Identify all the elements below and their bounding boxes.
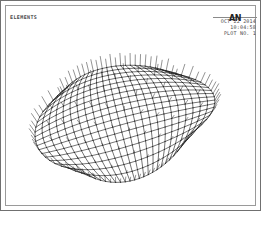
- mesh-edge: [164, 112, 171, 114]
- mesh-edge: [129, 128, 136, 130]
- mesh-edge: [116, 66, 118, 69]
- element-normal-spike: [91, 60, 93, 71]
- mesh-edge: [127, 90, 134, 91]
- mesh-edge: [153, 144, 159, 146]
- mesh-edge: [71, 117, 78, 120]
- mesh-edge: [122, 77, 124, 81]
- mesh-edge: [64, 146, 71, 148]
- mesh-edge: [144, 71, 148, 75]
- mesh-edge: [116, 175, 121, 183]
- mesh-edge: [56, 112, 63, 115]
- mesh-edge: [56, 121, 57, 127]
- mesh-edge: [124, 82, 126, 87]
- mesh-edge: [57, 123, 64, 126]
- mesh-edge: [191, 118, 192, 124]
- mesh-edge: [196, 90, 198, 94]
- mesh-edge: [81, 130, 83, 136]
- mesh-edge: [207, 100, 214, 101]
- mesh-edge: [57, 126, 58, 132]
- mesh-edge: [91, 93, 98, 95]
- mesh-edge: [190, 94, 191, 98]
- mesh-edge: [74, 151, 81, 153]
- mesh-edge: [193, 86, 196, 90]
- mesh-edge: [70, 100, 77, 103]
- mesh-edge: [184, 99, 185, 104]
- mesh-edge: [192, 98, 193, 103]
- mesh-edge: [173, 91, 175, 96]
- mesh-edge: [186, 86, 188, 90]
- mesh-edge: [126, 147, 128, 155]
- mesh-edge: [116, 174, 121, 175]
- element-normal-spike: [65, 77, 68, 85]
- mesh-edge: [92, 156, 96, 163]
- mesh-edge: [125, 181, 130, 182]
- mesh-edge: [158, 91, 165, 92]
- mesh-edge: [91, 98, 98, 100]
- mesh-edge: [78, 109, 85, 112]
- mesh-edge: [61, 141, 68, 143]
- mesh-edge: [146, 141, 147, 149]
- mesh-edge: [105, 129, 107, 136]
- mesh-edge: [64, 123, 65, 129]
- mesh-edge: [129, 130, 131, 137]
- element-normal-spike: [34, 109, 39, 117]
- mesh-edge: [148, 109, 155, 111]
- mesh-edge: [107, 67, 108, 71]
- mesh-edge: [82, 164, 87, 170]
- mesh-edge: [149, 116, 156, 118]
- mesh-edge: [91, 134, 93, 141]
- mesh-edge: [47, 147, 50, 152]
- mesh-edge: [85, 157, 89, 163]
- mesh-edge: [125, 85, 132, 86]
- mesh-edge: [82, 151, 85, 157]
- mesh-edge: [67, 135, 69, 141]
- mesh-edge: [89, 147, 96, 149]
- mesh-edge: [96, 125, 98, 132]
- mesh-edge: [98, 68, 102, 69]
- mesh-edge: [115, 78, 116, 83]
- mesh-edge: [79, 142, 86, 144]
- mesh-edge: [185, 104, 186, 109]
- mesh-edge: [172, 129, 178, 131]
- mesh-edge: [49, 150, 56, 152]
- mesh-edge: [132, 171, 135, 180]
- mesh-edge: [196, 125, 202, 130]
- mesh-edge: [91, 78, 97, 80]
- element-normal-spike: [205, 74, 210, 84]
- mesh-edge: [186, 108, 193, 109]
- mesh-edge: [192, 113, 193, 118]
- element-normal-spike: [201, 73, 205, 83]
- mesh-edge: [104, 120, 111, 122]
- mesh-edge: [109, 80, 110, 85]
- mesh-edge: [64, 148, 67, 153]
- mesh-edge: [165, 139, 171, 142]
- mesh-edge: [154, 104, 155, 110]
- mesh-edge: [93, 70, 97, 71]
- mesh-edge: [90, 88, 97, 90]
- mesh-edge: [78, 111, 79, 117]
- mesh-edge: [99, 104, 100, 110]
- mesh-edge: [142, 157, 148, 159]
- mesh-edge: [139, 83, 146, 84]
- mesh-edge: [117, 112, 119, 118]
- mesh-edge: [89, 162, 96, 163]
- mesh-edge: [103, 143, 110, 145]
- mesh-edge: [71, 95, 77, 98]
- mesh-edge: [132, 145, 134, 153]
- mesh-edge: [151, 79, 154, 83]
- mesh-edge: [91, 75, 92, 80]
- mesh-edge: [124, 81, 131, 82]
- mesh-edge: [57, 150, 60, 155]
- mesh-edge: [141, 88, 148, 89]
- element-normal-spike: [96, 60, 98, 69]
- mesh-edge: [125, 86, 127, 91]
- mesh-edge: [132, 107, 139, 109]
- mesh-edge: [87, 121, 89, 127]
- mesh-edge: [124, 69, 126, 73]
- element-normal-spike: [60, 87, 62, 91]
- mesh-edge: [87, 118, 94, 120]
- mesh-edge: [152, 136, 159, 138]
- mesh-edge: [63, 114, 70, 117]
- mesh-edge: [164, 142, 165, 150]
- mesh-edge: [147, 146, 153, 148]
